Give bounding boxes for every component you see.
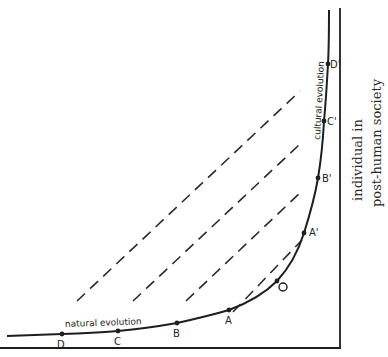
point-label-b: B xyxy=(173,328,180,339)
natural-evolution-label: natural evolution xyxy=(65,316,142,329)
dashed-link-d xyxy=(77,91,300,301)
point-a-prime: A' xyxy=(302,227,319,238)
point-label-a: A xyxy=(225,315,232,326)
side-label-line1: individual in xyxy=(350,118,365,200)
point-label-a-prime: A' xyxy=(309,227,319,238)
point-label-d: D xyxy=(57,339,65,350)
dashed-link-a xyxy=(233,240,302,312)
point-label-b-prime: B' xyxy=(322,173,332,184)
point-o xyxy=(275,279,287,291)
point-label-d-prime: D' xyxy=(330,59,340,70)
side-label-line2: post-human society xyxy=(369,78,384,207)
dashed-link-c xyxy=(133,144,300,301)
point-label-c: C xyxy=(114,336,121,347)
dashed-link-b xyxy=(186,191,302,301)
evolution-curve xyxy=(7,10,329,336)
point-label-c-prime: C' xyxy=(327,116,337,127)
point-label-o-ring xyxy=(279,283,287,291)
evolution-diagram: D C B A A' B' C' D' natural evolution cu… xyxy=(0,0,388,357)
